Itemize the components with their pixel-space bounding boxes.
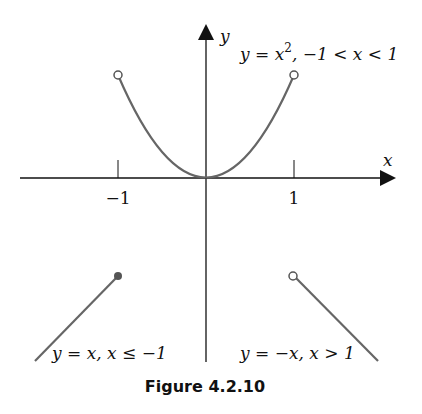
left-line-label: y = x, x ≤ −1 (51, 343, 167, 363)
parabola-label: y = x2, −1 < x < 1 (239, 41, 398, 64)
piecewise-function-graph: y x −1 1 y = x2, −1 < x < 1 y = x, x ≤ −… (0, 0, 422, 414)
open-circle-left (114, 71, 122, 79)
figure-caption: Figure 4.2.10 (145, 377, 265, 396)
closed-dot (114, 272, 122, 280)
tick-label-minus-1: −1 (105, 188, 130, 208)
y-axis-label: y (219, 26, 230, 46)
y-axis-arrow-icon (198, 24, 214, 40)
x-axis-arrow-icon (380, 170, 396, 186)
open-circle-right (290, 71, 298, 79)
tick-label-1: 1 (289, 188, 300, 208)
right-line-label: y = −x, x > 1 (239, 343, 355, 363)
x-axis-label: x (383, 150, 393, 170)
open-circle-right-line (289, 272, 297, 280)
